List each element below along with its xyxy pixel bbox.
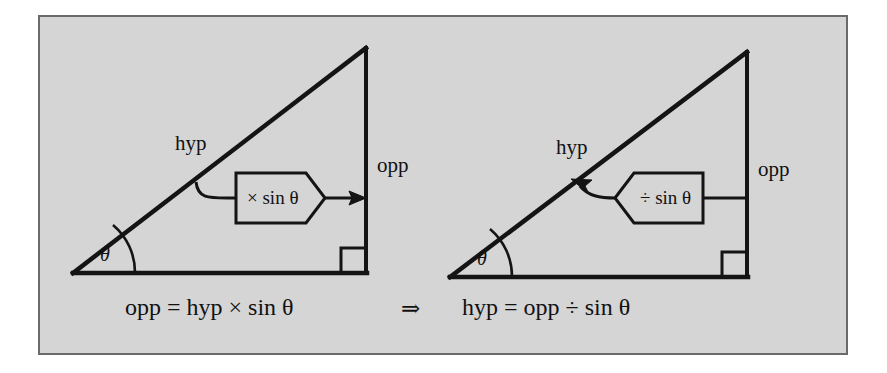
right-triangle-hypotenuse	[450, 52, 747, 277]
left-right-angle-marker	[341, 248, 366, 273]
right-hyp-label: hyp	[556, 137, 588, 158]
right-opp-label: opp	[758, 159, 790, 180]
left-theta-label: θ	[100, 244, 110, 264]
left-opp-label: opp	[377, 155, 409, 176]
left-triangle-hypotenuse	[73, 48, 366, 273]
right-right-angle-marker	[722, 252, 747, 277]
trigonometry-figure: hyp opp θ × sin θ hyp opp θ ÷ sin θ opp …	[0, 0, 887, 373]
left-equation: opp = hyp × sin θ	[125, 295, 294, 319]
left-operation-curve	[196, 182, 236, 198]
right-theta-label: θ	[477, 248, 487, 268]
right-equation: hyp = opp ÷ sin θ	[462, 295, 630, 319]
left-hyp-label: hyp	[175, 133, 207, 154]
right-operation-label: ÷ sin θ	[640, 188, 691, 207]
implication-arrow-icon: ⇒	[401, 297, 420, 320]
left-diagram-group	[73, 48, 367, 273]
left-operation-arrowhead-icon	[349, 191, 366, 205]
left-operation-label: × sin θ	[247, 188, 299, 207]
right-diagram-group	[450, 52, 748, 277]
